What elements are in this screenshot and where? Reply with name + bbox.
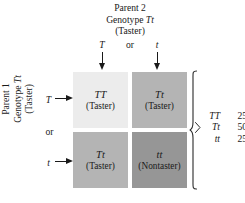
parent2-title: Parent 2 [73, 2, 187, 14]
parent1-or-label: or [44, 126, 55, 137]
grid-cell-top-left: TT (Taster) [73, 72, 128, 128]
parent1-genotype-value: Tt [12, 75, 23, 83]
legend-percent: 25% [220, 133, 245, 144]
arrow-down-icon [153, 52, 162, 70]
parent1-phenotype: (Taster) [23, 44, 35, 154]
parent2-phenotype: (Taster) [73, 25, 187, 37]
parent1-genotype-line: Genotype Tt [12, 44, 24, 154]
cell-genotype: TT [94, 89, 106, 101]
cell-phenotype: (Taster) [86, 161, 115, 172]
ratio-legend: TT 25% Tt 50% tt 25% [200, 110, 245, 144]
parent2-label: Parent 2 Genotype Tt (Taster) [73, 2, 187, 37]
parent1-title: Parent 1 [0, 44, 12, 154]
parent2-or-label: or [120, 39, 140, 50]
arrow-head [99, 63, 105, 70]
parent2-allele-row: T or t [73, 39, 187, 51]
legend-row: tt 25% [200, 133, 245, 144]
parent2-allele-left: T [92, 39, 112, 50]
legend-genotype: Tt [200, 121, 220, 132]
parent2-genotype-line: Genotype Tt [73, 14, 187, 26]
grid-cell-bottom-left: Tt (Taster) [73, 132, 128, 188]
legend-row: TT 25% [200, 110, 245, 121]
arrow-right-icon [55, 157, 73, 166]
cell-phenotype: (Taster) [145, 101, 174, 112]
cell-genotype: Tt [155, 89, 164, 101]
parent1-genotype-prefix: Genotype [12, 83, 23, 123]
grid-cell-bottom-right: tt (Nontaster) [132, 132, 187, 188]
parent1-allele-bottom: t [44, 157, 53, 168]
grid-cell-top-right: Tt (Taster) [132, 72, 187, 128]
cell-phenotype: (Taster) [86, 101, 115, 112]
punnett-grid: TT (Taster) Tt (Taster) Tt (Taster) tt (… [73, 72, 187, 188]
parent1-allele-column: T or t [44, 72, 73, 188]
arrow-head [66, 95, 73, 101]
legend-percent: 25% [220, 110, 245, 121]
legend-row: Tt 50% [200, 121, 245, 132]
cell-phenotype: (Nontaster) [138, 161, 180, 172]
parent1-allele-top: T [44, 94, 53, 105]
legend-genotype: TT [200, 110, 220, 121]
parent2-genotype-prefix: Genotype [106, 14, 146, 25]
parent2-genotype-value: Tt [146, 14, 154, 25]
parent2-allele-right: t [147, 39, 167, 50]
cell-genotype: tt [156, 149, 162, 161]
parent1-label: Parent 1 Genotype Tt (Taster) [0, 44, 38, 154]
legend-percent: 50% [220, 121, 245, 132]
arrow-down-icon [98, 52, 107, 70]
arrow-right-icon [55, 94, 73, 103]
punnett-square-diagram: Parent 2 Genotype Tt (Taster) T or t Par… [0, 0, 245, 203]
legend-genotype: tt [200, 133, 220, 144]
arrow-head [154, 63, 160, 70]
arrow-head [66, 158, 73, 164]
cell-genotype: Tt [96, 149, 105, 161]
